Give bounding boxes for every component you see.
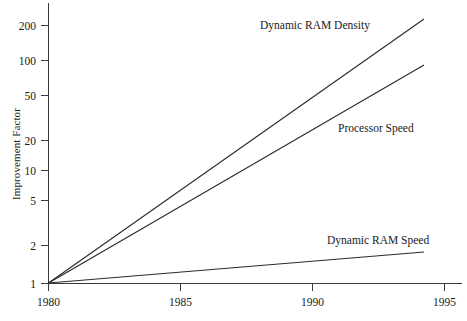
y-tick-label-200: 200 — [19, 20, 37, 32]
series-line-processor-speed — [49, 65, 425, 283]
chart-container: Improvement Factor 200 100 50 20 10 5 2 … — [0, 0, 467, 321]
y-tick-label-2: 2 — [30, 240, 36, 252]
x-tick-label-1990: 1990 — [301, 296, 324, 308]
x-tick-label-1980: 1980 — [37, 296, 60, 308]
y-tick-label-1: 1 — [30, 278, 36, 290]
series-label-processor-speed: Processor Speed — [338, 122, 414, 135]
y-tick-label-50: 50 — [25, 90, 37, 102]
series-line-dynamic-ram-speed — [49, 252, 425, 283]
y-tick-label-100: 100 — [19, 55, 37, 67]
y-tick-label-10: 10 — [25, 165, 37, 177]
series-label-dynamic-ram-speed: Dynamic RAM Speed — [327, 234, 429, 247]
series-label-dynamic-ram-density: Dynamic RAM Density — [260, 19, 370, 32]
x-tick-label-1985: 1985 — [169, 296, 192, 308]
chart-canvas: 200 100 50 20 10 5 2 1 1980 1985 1990 19… — [0, 0, 467, 321]
y-tick-label-20: 20 — [25, 135, 37, 147]
x-tick-label-1995: 1995 — [433, 296, 456, 308]
y-tick-label-5: 5 — [30, 195, 36, 207]
